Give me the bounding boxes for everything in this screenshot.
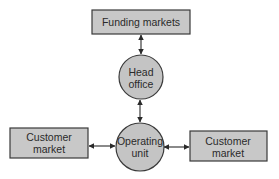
operating-unit-node: Operating unit	[116, 123, 164, 171]
funding-markets-label: Funding markets	[102, 16, 180, 28]
customer-market-left-label-line1: Customer	[26, 131, 72, 143]
operating-unit-label-line1: Operating	[117, 135, 163, 147]
customer-market-left-label-line2: market	[33, 143, 65, 155]
head-office-label-line2: office	[129, 78, 154, 90]
operating-unit-label-line2: unit	[132, 147, 149, 159]
customer-market-right-node: Customer market	[190, 131, 267, 161]
head-office-label-line1: Head	[128, 66, 153, 78]
customer-market-right-label-line2: market	[212, 147, 244, 159]
customer-market-left-node: Customer market	[10, 128, 88, 158]
organization-flow-diagram: Funding markets Head office Operating un…	[0, 0, 279, 179]
customer-market-right-label-line1: Customer	[205, 135, 251, 147]
funding-markets-node: Funding markets	[92, 10, 190, 34]
head-office-node: Head office	[119, 55, 163, 99]
